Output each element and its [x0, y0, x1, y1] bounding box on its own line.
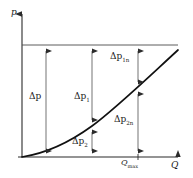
label-delta-p: Δp	[29, 92, 41, 101]
label-delta-p2-text: Δp	[72, 136, 84, 146]
label-delta-p-text: Δp	[29, 91, 41, 101]
label-delta-p1n-subscript: 1n	[122, 57, 129, 63]
label-delta-p2n: Δp2n	[114, 115, 133, 126]
label-delta-p2: Δp2	[72, 137, 88, 148]
x-axis-label: Q	[171, 161, 178, 170]
x-tick-label-qmax-subscript: max	[128, 163, 138, 169]
label-delta-p1: Δp1	[74, 92, 90, 103]
label-delta-p2n-text: Δp	[114, 114, 126, 124]
y-axis-label: p	[11, 8, 17, 17]
diagram-canvas	[0, 0, 193, 178]
characteristic-curve	[22, 50, 178, 157]
x-tick-label-qmax: Qmax	[121, 159, 138, 169]
label-delta-p2-subscript: 2	[84, 142, 88, 148]
label-delta-p1-subscript: 1	[86, 97, 90, 103]
label-delta-p1n-text: Δp	[110, 51, 122, 61]
label-delta-p1-text: Δp	[74, 91, 86, 101]
label-delta-p2n-subscript: 2n	[126, 120, 133, 126]
label-delta-p1n: Δp1n	[110, 52, 129, 63]
pressure-flow-diagram: p Q Δp Δp1 Δp2 Δp1n Δp2n Qmax	[0, 0, 193, 178]
